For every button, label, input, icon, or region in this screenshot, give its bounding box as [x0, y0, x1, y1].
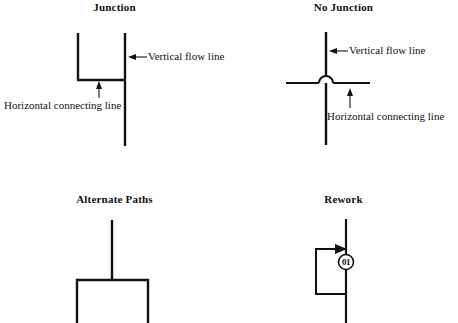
no-junction-vertical-leader-arrowhead [329, 48, 337, 54]
no-junction-horizontal-leader-arrowhead [347, 88, 353, 96]
junction-vertical-leader-arrowhead [128, 54, 136, 60]
panel-junction: Junction Vertical flow line Horizontal c… [0, 0, 229, 161]
junction-horizontal-leader-arrowhead [96, 81, 102, 89]
alternate-paths-graphic [0, 161, 229, 323]
junction-graphic [0, 0, 229, 161]
annotation-no-junction-horizontal-connecting-line: Horizontal connecting line [327, 110, 444, 122]
panel-alternate-paths: Alternate Paths [0, 161, 229, 323]
no-junction-hop-arc [319, 76, 333, 83]
panel-rework: Rework 01 [229, 161, 458, 323]
no-junction-graphic [229, 0, 458, 161]
diagram-canvas: Junction Vertical flow line Horizontal c… [0, 0, 458, 323]
panel-no-junction: No Junction Vertical flow line Horizonta… [229, 0, 458, 161]
rework-connector-label: 01 [336, 257, 356, 267]
annotation-junction-horizontal-connecting-line: Horizontal connecting line [4, 99, 121, 111]
annotation-junction-vertical-flow-line: Vertical flow line [148, 50, 224, 62]
rework-graphic [229, 161, 458, 323]
annotation-no-junction-vertical-flow-line: Vertical flow line [349, 44, 425, 56]
